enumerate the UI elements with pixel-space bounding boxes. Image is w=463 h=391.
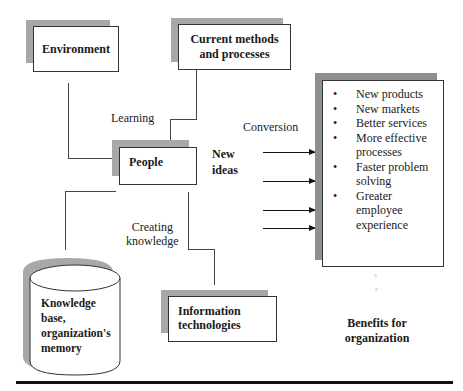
connector-it-horizontal <box>188 249 214 250</box>
connector-methods-vertical-2 <box>170 119 171 141</box>
connector-methods-vertical-1 <box>196 70 197 120</box>
faint-mark <box>374 274 377 277</box>
it-label: Information technologies <box>178 304 241 332</box>
arrow-conversion-2 <box>263 181 315 182</box>
environment-box: Environment <box>33 26 119 72</box>
conversion-label: Conversion <box>243 120 298 134</box>
new-ideas-line2: ideas <box>212 162 238 178</box>
creating-knowledge-line1: Creating <box>126 220 179 234</box>
current-methods-label-line1: Current methods <box>190 32 278 47</box>
connector-it-vertical-2 <box>214 249 215 285</box>
current-methods-box: Current methods and processes <box>178 24 291 70</box>
benefits-title: Benefits for organization <box>337 316 417 346</box>
faint-mark <box>375 288 378 291</box>
connector-methods-horizontal <box>170 119 197 120</box>
creating-knowledge-line2: knowledge <box>126 234 179 248</box>
arrow-conversion-4 <box>263 228 315 229</box>
environment-label: Environment <box>42 42 110 57</box>
learning-label: Learning <box>111 111 154 125</box>
connector-environment-vertical <box>68 83 69 159</box>
connector-kb-vertical <box>65 191 66 250</box>
connector-it-vertical-1 <box>188 192 189 250</box>
creating-knowledge-label: Creating knowledge <box>126 220 179 248</box>
benefit-item: Faster problemsolving <box>323 160 443 189</box>
benefits-box: New products New markets Better services… <box>322 80 444 267</box>
bottom-rule <box>16 381 453 384</box>
arrow-conversion-1 <box>263 152 315 153</box>
benefit-item: Better services <box>323 116 443 131</box>
connector-kb-horizontal <box>65 191 116 192</box>
benefit-item: Greateremployeeexperience <box>323 189 443 233</box>
new-ideas-line1: New <box>212 146 238 162</box>
information-technologies-box: Information technologies <box>168 296 277 342</box>
people-label: People <box>129 155 163 170</box>
benefit-item: More effectiveprocesses <box>323 131 443 160</box>
benefit-item: New markets <box>323 102 443 117</box>
knowledge-base-label: Knowledge base, organization's memory <box>41 296 111 356</box>
benefits-list: New products New markets Better services… <box>323 87 443 232</box>
benefit-item: New products <box>323 87 443 102</box>
arrow-conversion-3 <box>263 210 315 211</box>
people-box: People <box>119 147 197 185</box>
current-methods-label-line2: and processes <box>199 47 269 62</box>
new-ideas-label: New ideas <box>212 146 238 178</box>
